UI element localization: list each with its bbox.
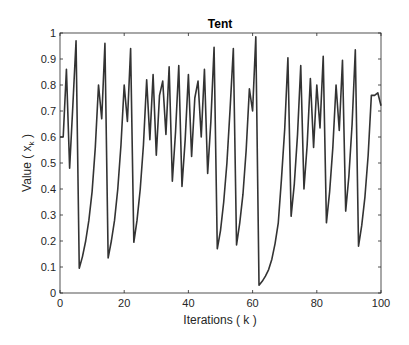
chart-title: Tent (208, 17, 232, 31)
figure: Tent 020406080100 00.10.20.30.40.50.60.7… (0, 0, 409, 345)
y-tick-label: 0.7 (41, 105, 56, 117)
y-tick-label: 0.6 (41, 131, 56, 143)
x-tick-label: 40 (182, 297, 194, 309)
y-tick-label: 0.5 (41, 157, 56, 169)
y-tick-label: 0.1 (41, 261, 56, 273)
y-tick-label: 1 (50, 27, 56, 39)
series-line (60, 37, 381, 285)
x-tick-label: 0 (57, 297, 63, 309)
x-tick-label: 60 (246, 297, 258, 309)
chart: Tent 020406080100 00.10.20.30.40.50.60.7… (0, 0, 409, 345)
y-axis: 00.10.20.30.40.50.60.70.80.91 (41, 27, 381, 299)
y-tick-label: 0.8 (41, 79, 56, 91)
x-axis-label: Iterations ( k ) (183, 313, 256, 327)
x-tick-label: 100 (372, 297, 390, 309)
y-tick-label: 0.9 (41, 53, 56, 65)
y-tick-label: 0.4 (41, 183, 56, 195)
y-tick-label: 0.2 (41, 235, 56, 247)
y-axis-label: Value ( xk ) (20, 134, 36, 192)
x-tick-label: 20 (118, 297, 130, 309)
x-tick-label: 80 (311, 297, 323, 309)
y-tick-label: 0.3 (41, 209, 56, 221)
y-tick-label: 0 (50, 287, 56, 299)
data-line (60, 37, 381, 285)
